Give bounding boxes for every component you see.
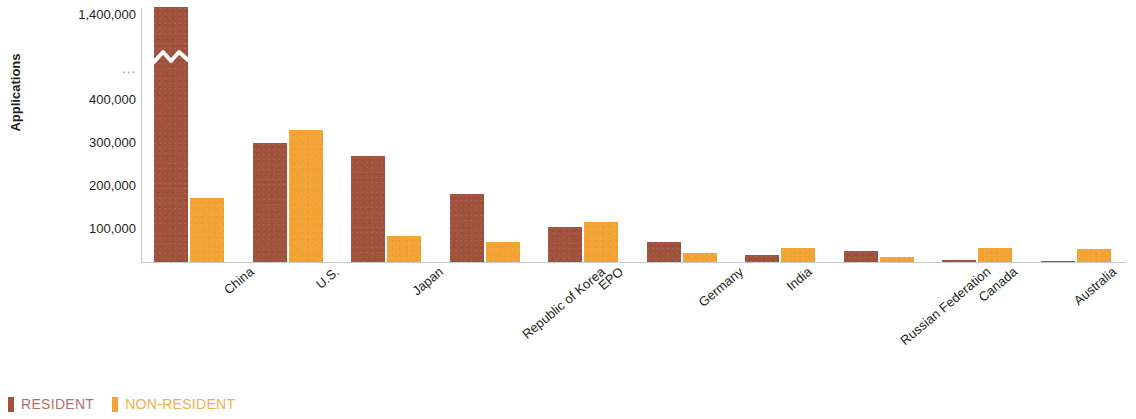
bar-non-resident	[1077, 249, 1111, 262]
y-axis-tick-label: 200,000	[10, 179, 136, 192]
patent-applications-bar-chart: Applications 1,400,000...400,000300,0002…	[0, 0, 1136, 419]
bar-resident	[154, 7, 188, 262]
legend-label: NON-RESIDENT	[125, 396, 235, 412]
bar-non-resident	[683, 253, 717, 262]
bar-group	[548, 8, 647, 262]
y-axis-tick-label: 300,000	[10, 136, 136, 149]
y-axis-tick-label: 100,000	[10, 222, 136, 235]
bar-group	[450, 8, 549, 262]
bar-resident	[1041, 261, 1075, 262]
bar-resident	[450, 194, 484, 262]
bar-group	[1041, 8, 1136, 262]
bar-non-resident	[880, 257, 914, 262]
legend-item[interactable]: NON-RESIDENT	[112, 396, 235, 412]
bar-resident	[942, 260, 976, 262]
bar-resident	[548, 227, 582, 262]
bar-non-resident	[486, 242, 520, 262]
bar-non-resident	[584, 222, 618, 262]
x-axis-label: Australia	[1071, 264, 1119, 308]
bar-non-resident	[289, 130, 323, 262]
y-axis-tick-label: 1,400,000	[10, 8, 136, 21]
axis-break-zigzag	[154, 48, 188, 70]
chart-legend: RESIDENTNON-RESIDENT	[8, 396, 235, 412]
x-axis-label: Germany	[696, 264, 747, 310]
x-axis-tick-labels: ChinaU.S.JapanRepublic of KoreaEPOGerman…	[141, 264, 1126, 374]
bar-non-resident	[781, 248, 815, 262]
bar-resident	[745, 255, 779, 262]
bar-group	[844, 8, 943, 262]
bar-group	[253, 8, 352, 262]
bar-group	[154, 8, 253, 262]
bar-non-resident	[387, 236, 421, 262]
x-axis-label: Republic of Korea	[519, 264, 608, 342]
bar-group	[745, 8, 844, 262]
bar-resident	[647, 242, 681, 262]
y-axis-tick-label: 400,000	[10, 93, 136, 106]
bar-group	[351, 8, 450, 262]
legend-item[interactable]: RESIDENT	[8, 396, 94, 412]
x-axis-label: China	[221, 264, 257, 297]
y-axis-tick-labels: 1,400,000...400,000300,000200,000100,000	[10, 0, 136, 419]
bar-group	[942, 8, 1041, 262]
bar-resident	[844, 251, 878, 262]
legend-swatch-icon	[8, 397, 14, 412]
bar-resident	[351, 156, 385, 262]
x-axis-label: Russian Federation	[897, 264, 993, 348]
x-axis-label: India	[784, 264, 815, 294]
legend-label: RESIDENT	[21, 396, 94, 412]
y-axis-break-marker: ...	[10, 62, 136, 75]
x-axis-label: U.S.	[313, 264, 342, 292]
bar-resident	[253, 143, 287, 262]
bar-non-resident	[978, 248, 1012, 262]
x-axis-label: Japan	[409, 264, 446, 298]
bar-non-resident	[190, 198, 224, 262]
legend-swatch-icon	[112, 397, 118, 412]
plot-area	[141, 8, 1126, 263]
bar-group	[647, 8, 746, 262]
